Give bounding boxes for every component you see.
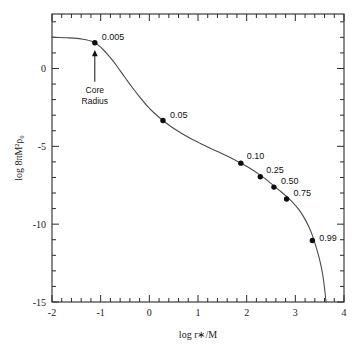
x-tick-label: 3 [293, 307, 298, 318]
data-point-label: 0.50 [281, 176, 299, 186]
x-axis-title: log r∗/M [179, 329, 217, 340]
y-tick-label: -10 [33, 219, 46, 230]
x-tick-label: 0 [147, 307, 152, 318]
data-point-label: 0.05 [170, 110, 188, 120]
data-point-marker [284, 196, 289, 201]
data-point-label: 0.25 [266, 165, 284, 175]
data-point-label: 0.99 [319, 233, 337, 243]
data-point-marker [258, 174, 263, 179]
core-radius-label-line2: Radius [82, 96, 108, 106]
x-tick-label: -1 [96, 307, 104, 318]
x-tick-label: 2 [244, 307, 249, 318]
data-point-label: 0.75 [294, 188, 312, 198]
figure-container: 0.0050.050.100.250.500.750.99 CoreRadius… [0, 0, 361, 352]
y-tick-label: -5 [38, 141, 46, 152]
data-point-marker [160, 118, 165, 123]
data-point-label: 0.005 [102, 32, 125, 42]
y-axis-title: log 8πM²ρ₀ [13, 135, 24, 181]
x-tick-label: 1 [196, 307, 201, 318]
data-point-marker [92, 40, 97, 45]
x-tick-label: -2 [48, 307, 56, 318]
data-point-marker [271, 184, 276, 189]
y-tick-label: 0 [41, 63, 46, 74]
core-radius-label-line1: Core [86, 85, 105, 95]
data-point-marker [238, 160, 243, 165]
y-tick-label: -15 [33, 297, 46, 308]
data-point-label: 0.10 [247, 151, 265, 161]
data-point-marker [310, 238, 315, 243]
density-profile-chart: 0.0050.050.100.250.500.750.99 CoreRadius… [0, 0, 361, 352]
x-tick-label: 4 [342, 307, 347, 318]
